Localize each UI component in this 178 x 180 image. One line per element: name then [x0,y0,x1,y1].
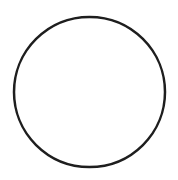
canvas-background [0,0,178,180]
circle-drawing-svg [0,0,178,180]
drawing-canvas [0,0,178,180]
